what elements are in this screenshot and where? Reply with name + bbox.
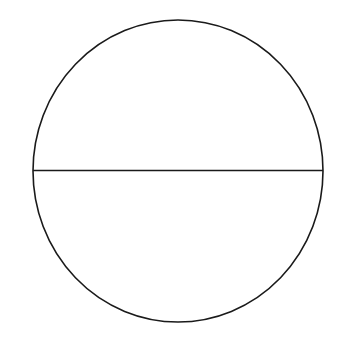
diagram-canvas <box>0 0 348 353</box>
